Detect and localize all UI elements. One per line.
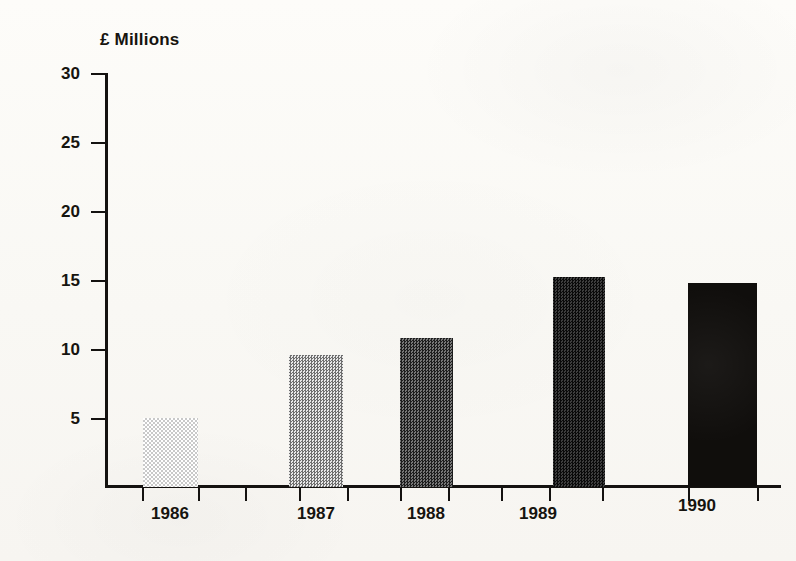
x-axis-tick-1987-left [245, 488, 247, 501]
x-axis-tick-1989-left [448, 488, 450, 501]
x-axis-tick-1988-right [400, 488, 402, 501]
y-axis-title: £ Millions [100, 30, 179, 50]
x-axis-label-1987: 1987 [276, 504, 356, 524]
bar-1987 [289, 355, 343, 487]
x-axis-label-1989: 1989 [498, 504, 578, 524]
y-axis-tick-label-25: 25 [36, 133, 80, 153]
x-axis-tick-extra-right [757, 488, 759, 501]
y-axis-tick-label-30: 30 [36, 64, 80, 84]
x-axis-tick-1990-left [549, 488, 551, 501]
y-axis-tick-30 [91, 73, 106, 75]
y-axis-tick-25 [91, 142, 106, 144]
x-axis-tick-1989-right [501, 488, 503, 501]
y-axis-tick-label-20: 20 [36, 202, 80, 222]
bar-chart: £ Millions 30 25 20 15 10 5 1986 1987 19… [0, 0, 796, 561]
x-axis-label-1988: 1988 [386, 504, 466, 524]
y-axis-tick-10 [91, 349, 106, 351]
x-axis-tick-1986-right [198, 488, 200, 501]
x-axis-label-1986: 1986 [130, 504, 210, 524]
bar-1986 [143, 418, 198, 487]
y-axis-tick-20 [91, 211, 106, 213]
bar-1989 [553, 277, 605, 487]
x-axis-tick-1987-right [299, 488, 301, 501]
x-axis-tick-1986-left [142, 488, 144, 501]
bar-1988 [400, 338, 453, 487]
bar-1990 [688, 283, 757, 487]
y-axis-tick-15 [91, 280, 106, 282]
x-axis-tick-1988-left [347, 488, 349, 501]
x-axis-label-1990: 1990 [657, 496, 737, 516]
y-axis-tick-label-10: 10 [36, 340, 80, 360]
y-axis-tick-label-15: 15 [36, 271, 80, 291]
y-axis-tick-5 [91, 418, 106, 420]
y-axis-tick-label-5: 5 [36, 409, 80, 429]
x-axis-tick-1990-right [602, 488, 604, 501]
